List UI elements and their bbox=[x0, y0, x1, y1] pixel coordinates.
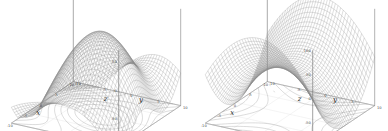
tick-label: -10 bbox=[269, 82, 276, 86]
figure-container: -10-50510-10-50510-100-50050 x y z -10-5… bbox=[0, 0, 388, 131]
surface-plot-right: -10-50510-10-50510-100-50050100 x y z bbox=[194, 0, 388, 131]
tick-label: -50 bbox=[305, 121, 312, 125]
z-axis-label: z bbox=[297, 95, 302, 103]
tick-label: 100 bbox=[304, 49, 312, 53]
surface-plot-right-canvas: -10-50510-10-50510-100-50050100 x y z bbox=[194, 0, 388, 131]
tick-label: 50 bbox=[112, 60, 117, 64]
tick-label: -10 bbox=[201, 124, 208, 128]
floor-plane-left bbox=[11, 82, 180, 131]
surface-plot-left-canvas: -10-50510-10-50510-100-50050 x y z bbox=[0, 0, 194, 131]
tick-label: -10 bbox=[7, 124, 14, 128]
tick-label: 50 bbox=[306, 73, 311, 77]
tick-label: -10 bbox=[75, 82, 82, 86]
x-axis-label: x bbox=[36, 109, 40, 117]
tick-label: -50 bbox=[111, 117, 118, 121]
surface-plot-left: -10-50510-10-50510-100-50050 x y z bbox=[0, 0, 194, 131]
x-axis-label: x bbox=[230, 109, 234, 117]
tick-label: 10 bbox=[183, 106, 188, 110]
tick-label: 10 bbox=[377, 106, 382, 110]
z-axis-label: z bbox=[103, 95, 108, 103]
